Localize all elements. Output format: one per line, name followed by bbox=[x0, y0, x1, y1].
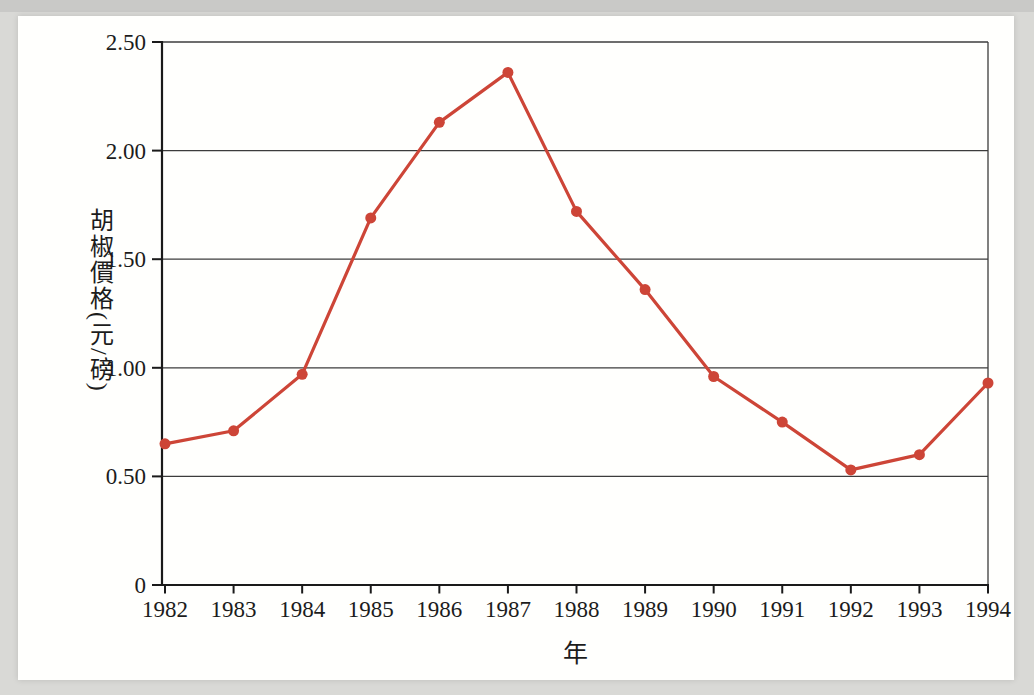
x-tick-label-1982: 1982 bbox=[142, 597, 188, 622]
data-point-1986 bbox=[434, 117, 445, 128]
data-point-1987 bbox=[502, 67, 513, 78]
data-point-1992 bbox=[845, 464, 856, 475]
data-point-1993 bbox=[914, 449, 925, 460]
data-point-1988 bbox=[571, 206, 582, 217]
x-axis-title: 年 bbox=[563, 633, 588, 669]
x-tick-label-1986: 1986 bbox=[416, 597, 462, 622]
y-tick-label-0.5: 0.50 bbox=[106, 464, 146, 489]
x-tick-label-1983: 1983 bbox=[211, 597, 257, 622]
x-tick-label-1992: 1992 bbox=[828, 597, 874, 622]
data-point-1989 bbox=[640, 284, 651, 295]
data-point-1994 bbox=[983, 378, 994, 389]
pepper-price-line-chart: 00.501.001.502.002.501982198319841985198… bbox=[0, 0, 1034, 695]
y-tick-label-2.5: 2.50 bbox=[106, 30, 146, 55]
x-tick-label-1987: 1987 bbox=[485, 597, 531, 622]
data-point-1984 bbox=[297, 369, 308, 380]
x-tick-label-1993: 1993 bbox=[896, 597, 942, 622]
data-point-1983 bbox=[228, 425, 239, 436]
x-tick-label-1991: 1991 bbox=[759, 597, 805, 622]
data-point-1982 bbox=[160, 438, 171, 449]
x-tick-label-1990: 1990 bbox=[691, 597, 737, 622]
x-tick-label-1989: 1989 bbox=[622, 597, 668, 622]
y-tick-label-0: 0 bbox=[135, 573, 147, 598]
x-tick-label-1984: 1984 bbox=[279, 597, 326, 622]
page: { "page": { "background_color": "#d9d9d6… bbox=[0, 0, 1034, 695]
data-point-1991 bbox=[777, 417, 788, 428]
y-tick-label-2: 2.00 bbox=[106, 139, 146, 164]
price-line bbox=[165, 72, 988, 469]
data-point-1990 bbox=[708, 371, 719, 382]
y-axis-title: 胡椒價格(元/磅) bbox=[82, 208, 117, 393]
x-tick-label-1994: 1994 bbox=[965, 597, 1012, 622]
data-point-1985 bbox=[365, 212, 376, 223]
x-tick-label-1988: 1988 bbox=[554, 597, 600, 622]
x-tick-label-1985: 1985 bbox=[348, 597, 394, 622]
